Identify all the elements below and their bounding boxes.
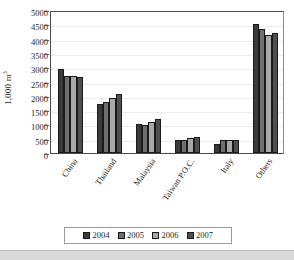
bar-group	[136, 12, 162, 153]
y-axis-tick-label: 2500	[14, 81, 48, 90]
plot-area	[50, 11, 284, 154]
legend-item: 2006	[152, 231, 179, 240]
y-axis-tick-label: 1000	[14, 123, 48, 132]
legend-swatch-icon	[83, 232, 90, 239]
bar-series-container	[51, 12, 283, 153]
legend-item: 2004	[83, 231, 110, 240]
chart-legend: 2004200520062007	[64, 227, 232, 244]
x-axis-category-label: Italy	[192, 157, 235, 213]
x-axis-category-label: Taiwan P.O.C.	[153, 157, 196, 213]
y-axis-tick-mark	[44, 25, 49, 26]
bar-group	[214, 12, 240, 153]
x-axis-category-label: Malaysia	[114, 157, 157, 213]
y-axis-tick-mark	[44, 54, 49, 55]
y-axis-tick-label: 3000	[14, 66, 48, 75]
bar	[233, 140, 239, 153]
x-axis-category-label: Thailand	[75, 157, 118, 213]
legend-swatch-icon	[152, 232, 159, 239]
bar-group	[175, 12, 201, 153]
bar	[77, 77, 83, 153]
bar-group	[58, 12, 84, 153]
x-axis-category-label: Others	[231, 157, 274, 213]
y-axis-tick-label: 2000	[14, 95, 48, 104]
legend-item: 2005	[118, 231, 145, 240]
y-axis-tick-mark	[44, 140, 49, 141]
bar	[155, 119, 161, 153]
bar-group	[253, 12, 279, 153]
y-axis-tick-label: 4000	[14, 38, 48, 47]
x-axis-category-label: China	[36, 157, 79, 213]
y-axis-tick-label: 3500	[14, 52, 48, 61]
legend-swatch-icon	[187, 232, 194, 239]
y-axis-title-exponent: 3	[2, 71, 8, 74]
legend-item: 2007	[187, 231, 214, 240]
y-axis-tick-mark	[44, 111, 49, 112]
bar	[116, 94, 122, 153]
legend-label: 2007	[196, 231, 213, 240]
y-axis-tick-mark	[44, 83, 49, 84]
page-bottom-band	[0, 250, 294, 260]
y-axis-tick-mark	[44, 40, 49, 41]
y-axis-tick-label: 500	[14, 138, 48, 147]
y-axis-tick-label: 5000	[14, 9, 48, 18]
y-axis-tick-mark	[44, 11, 49, 12]
bar	[272, 33, 278, 153]
legend-swatch-icon	[118, 232, 125, 239]
bar-group	[97, 12, 123, 153]
legend-label: 2004	[93, 231, 110, 240]
legend-label: 2006	[162, 231, 179, 240]
x-axis-category-labels: ChinaThailandMalaysiaTaiwan P.O.C.ItalyO…	[0, 155, 294, 217]
y-axis-tick-mark	[44, 97, 49, 98]
y-axis-tick-mark	[44, 125, 49, 126]
y-axis-tick-label: 1500	[14, 109, 48, 118]
y-axis-title-text: 1,000 m	[3, 74, 13, 105]
y-axis-tick-labels: 5000450040003500300025002000150010005000	[14, 8, 48, 156]
y-axis-tick-label: 4500	[14, 23, 48, 32]
y-axis-tick-mark	[44, 68, 49, 69]
legend-label: 2005	[127, 231, 144, 240]
bar	[194, 137, 200, 153]
